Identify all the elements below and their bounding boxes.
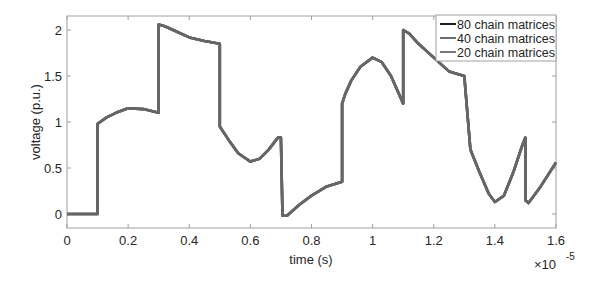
x-tick-label: 0.4 [180,233,198,248]
x-tick-label: 0.2 [119,233,137,248]
legend-label: 20 chain matrices [457,46,555,60]
x-tick-label: 0 [63,233,70,248]
x-axis-label: time (s) [289,252,332,267]
x-tick-label: 0.8 [302,233,320,248]
legend-item-20: 20 chain matrices [440,46,555,60]
chart-svg: 00.20.40.60.811.21.41.6 00.511.52 time (… [0,0,590,285]
y-tick-label: 1 [55,115,62,130]
y-tick-label: 0 [55,207,62,222]
y-axis-label: voltage (p.u.) [28,84,43,160]
legend-item-80: 80 chain matrices [440,18,555,32]
x-tick-label: 1.4 [486,233,504,248]
x-tick-label: 0.6 [241,233,259,248]
x-multiplier: ×10 -5 [534,251,575,272]
x-tick-label: 1.2 [425,233,443,248]
y-tick-label: 2 [55,23,62,38]
legend-label: 40 chain matrices [457,32,555,46]
x-tick-label: 1 [369,233,376,248]
x-multiplier-base: ×10 [534,257,556,272]
y-tick-label: 1.5 [44,69,62,84]
y-tick-label: 0.5 [44,161,62,176]
x-tick-label: 1.6 [547,233,565,248]
legend-item-40: 40 chain matrices [440,32,555,46]
legend-label: 80 chain matrices [457,18,555,32]
legend: 80 chain matrices 40 chain matrices 20 c… [436,15,556,61]
x-multiplier-exponent: -5 [566,251,575,262]
